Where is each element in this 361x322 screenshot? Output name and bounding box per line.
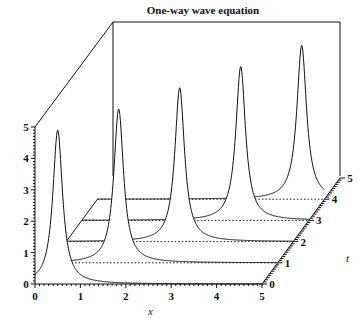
t-tick-label: 0 [269,278,275,290]
t-tick-label: 1 [285,257,291,269]
t-axis-label: t [346,252,350,264]
floor-edge [66,220,82,241]
x-tick-label: 0 [32,290,38,302]
z-tick-label: 0 [23,278,29,290]
t-tick-label: 3 [316,214,322,226]
z-tick-label: 1 [23,247,29,259]
curve-fill [97,45,324,199]
t-tick-label: 4 [332,193,338,205]
t-tick-label: 2 [300,236,306,248]
floor-edge [82,199,98,220]
x-tick-label: 3 [168,290,174,302]
z-tick-label: 4 [23,152,29,164]
x-tick-label: 2 [123,290,129,302]
z-tick-label: 2 [23,215,29,227]
chart-title: One-way wave equation [147,4,259,16]
x-axis-label: x [147,305,153,317]
x-tick-label: 5 [259,290,265,302]
wave-curves [35,45,324,284]
x-tick-label: 4 [214,290,220,302]
z-tick-label: 5 [23,121,29,133]
z-tick-label: 3 [23,184,29,196]
t-tick-label: 5 [347,172,353,184]
x-tick-label: 1 [78,290,84,302]
wave-waterfall-chart: One-way wave equation 012345012345012345… [0,0,361,322]
